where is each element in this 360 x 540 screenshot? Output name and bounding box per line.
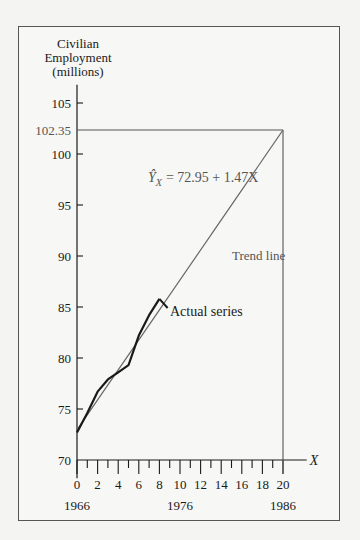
y-tick-label: 95 xyxy=(58,198,71,213)
x-tick-label: 16 xyxy=(235,477,249,492)
employment-trend-chart: CivilianEmployment(millions)X70758085909… xyxy=(0,0,360,540)
x-tick-label: 14 xyxy=(215,477,229,492)
trend-equation: ŶX= 72.95 + 1.47X xyxy=(148,169,258,188)
x-year-label: 1966 xyxy=(64,498,91,513)
y-tick-label: 75 xyxy=(58,402,71,417)
x-tick-label: 12 xyxy=(194,477,207,492)
y-axis-title: Civilian xyxy=(57,36,99,51)
projection-value-label: 102.35 xyxy=(35,123,71,138)
y-tick-label: 70 xyxy=(58,453,71,468)
y-tick-label: 100 xyxy=(52,147,72,162)
x-tick-label: 10 xyxy=(174,477,187,492)
x-tick-label: 8 xyxy=(156,477,163,492)
x-tick-label: 20 xyxy=(277,477,290,492)
y-tick-label: 85 xyxy=(58,300,71,315)
actual-series-label: Actual series xyxy=(170,304,243,319)
x-tick-label: 0 xyxy=(74,477,81,492)
y-axis-title: Employment xyxy=(44,50,112,65)
trend-line-label: Trend line xyxy=(232,248,286,263)
x-tick-label: 2 xyxy=(94,477,101,492)
y-tick-label: 90 xyxy=(58,249,71,264)
x-tick-label: 18 xyxy=(256,477,269,492)
y-axis-title: (millions) xyxy=(52,64,103,79)
x-tick-label: 6 xyxy=(136,477,143,492)
y-tick-label: 80 xyxy=(58,351,71,366)
y-tick-label: 105 xyxy=(52,96,72,111)
x-axis-name: X xyxy=(309,453,319,468)
x-year-label: 1986 xyxy=(270,498,297,513)
x-year-label: 1976 xyxy=(167,498,194,513)
x-tick-label: 4 xyxy=(115,477,122,492)
